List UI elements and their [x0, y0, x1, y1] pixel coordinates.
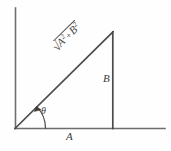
triangle-diagram-svg: [0, 0, 171, 151]
figure-container: √A2+B2 B A θ: [0, 0, 171, 151]
vertical-leg-label: B: [103, 73, 110, 84]
angle-label: θ: [41, 106, 46, 116]
horizontal-leg-label: A: [66, 131, 73, 142]
